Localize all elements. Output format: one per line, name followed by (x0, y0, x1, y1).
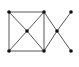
graph-edges (9, 12, 71, 51)
edge-F-G (57, 12, 71, 31)
edge-B-C (27, 12, 44, 31)
node-C (25, 29, 29, 33)
node-E (42, 49, 46, 53)
edge-E-F (44, 31, 57, 51)
edge-E-C (27, 31, 44, 51)
edge-A-C (9, 12, 27, 31)
edge-D-C (9, 31, 27, 51)
node-F (55, 29, 59, 33)
node-G (69, 10, 73, 14)
node-D (7, 49, 11, 53)
edge-F-H (57, 31, 71, 51)
node-A (7, 10, 11, 14)
graph-diagram (0, 0, 79, 67)
node-H (69, 49, 73, 53)
node-B (42, 10, 46, 14)
edge-B-F (44, 12, 57, 31)
